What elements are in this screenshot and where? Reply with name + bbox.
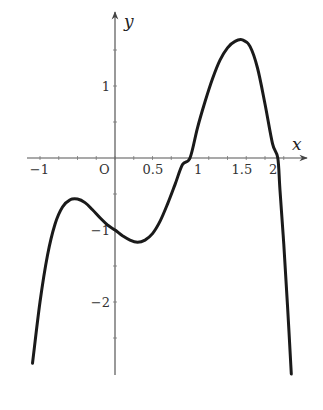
x-tick-label: 0.5: [143, 162, 164, 177]
x-tick-label: 1: [194, 162, 202, 177]
tick-labels: −10.511.521−1−2: [30, 79, 277, 310]
x-axis-label: x: [292, 134, 302, 154]
y-axis-label: y: [123, 11, 134, 31]
x-tick-label: 2: [269, 162, 277, 177]
y-tick-label: −2: [91, 295, 110, 310]
axis-ticks: [40, 50, 284, 338]
x-tick-label: −1: [30, 162, 49, 177]
function-graph: −10.511.521−1−2 x y O: [0, 0, 323, 410]
y-tick-label: 1: [102, 79, 110, 94]
x-tick-label: 1.5: [232, 162, 253, 177]
origin-label: O: [99, 162, 110, 177]
function-curve: [33, 40, 292, 374]
